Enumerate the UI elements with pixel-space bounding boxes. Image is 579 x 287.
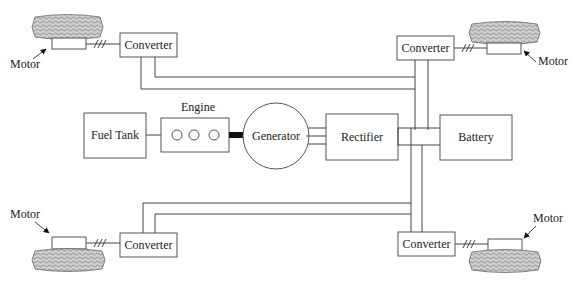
three-phase-symbol-icon (94, 40, 106, 48)
three-phase-symbol-icon (94, 239, 106, 247)
engine-label: Engine (181, 100, 215, 114)
front-right-converter: Converter (397, 36, 454, 60)
rear-right-tire-icon (469, 250, 541, 273)
front-left-motor-block (52, 38, 86, 49)
rear-left-converter: Converter (120, 233, 177, 257)
rear-left-tire-icon (32, 249, 105, 272)
generator-label: Generator (252, 129, 300, 143)
hev-powertrain-diagram: Motor Converter Converter Motor Fuel Tan… (0, 0, 579, 287)
front-right-motor-arrow-icon (524, 51, 536, 62)
rear-right-wheel-assembly: Motor (455, 211, 563, 273)
rear-right-converter-label: Converter (403, 237, 451, 251)
engine-cylinder-icon (172, 130, 182, 140)
central-dc-bus (398, 128, 440, 232)
front-right-motor-block (487, 43, 521, 54)
rear-dc-bus (143, 203, 411, 233)
engine-cylinder-icon (189, 130, 199, 140)
fuel-tank-label: Fuel Tank (91, 128, 139, 142)
front-right-tire-icon (469, 22, 540, 45)
rear-left-motor-block (52, 237, 86, 249)
three-phase-symbol-icon (462, 44, 474, 52)
rear-left-wheel-assembly: Motor (10, 207, 120, 272)
front-left-converter: Converter (120, 33, 177, 57)
engine-cylinder-icon (209, 130, 219, 140)
front-left-wheel-assembly: Motor (10, 15, 120, 72)
engine: Engine (161, 100, 229, 152)
fuel-tank: Fuel Tank (84, 113, 146, 158)
rear-left-converter-label: Converter (125, 238, 173, 252)
rectifier: Rectifier (326, 114, 398, 160)
drive-shaft (229, 132, 243, 138)
front-right-motor-label: Motor (538, 54, 568, 68)
front-right-wheel-assembly: Motor (454, 22, 568, 69)
rear-right-motor-arrow-icon (524, 226, 536, 238)
battery: Battery (440, 115, 512, 160)
rear-left-motor-arrow-icon (35, 222, 49, 233)
rear-left-motor-label: Motor (10, 207, 40, 221)
front-left-tire-icon (32, 15, 103, 40)
rear-right-motor-label: Motor (533, 211, 563, 225)
rectifier-label: Rectifier (341, 130, 383, 144)
rear-right-converter: Converter (398, 232, 455, 256)
generator: Generator (243, 103, 309, 169)
front-left-motor-label: Motor (10, 57, 40, 71)
battery-label: Battery (458, 130, 493, 144)
front-left-converter-label: Converter (125, 38, 173, 52)
front-right-converter-label: Converter (402, 41, 450, 55)
three-phase-symbol-icon (463, 240, 475, 248)
